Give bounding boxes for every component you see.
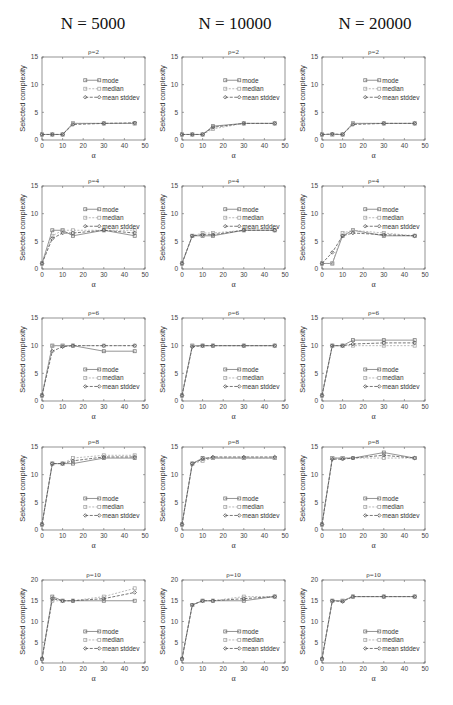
x-tick-label: 20 [80, 665, 88, 672]
x-tick-label: 40 [401, 142, 409, 149]
y-tick-label: 0 [314, 526, 318, 533]
panel-title: ρ=8 [88, 438, 99, 446]
y-tick-label: 20 [171, 576, 179, 583]
x-tick-label: 0 [40, 142, 44, 149]
legend-label: mode [242, 206, 259, 213]
y-tick-label: 15 [171, 182, 179, 189]
y-tick-label: 15 [311, 597, 319, 604]
legend-label: median [102, 503, 124, 510]
legend-label: mode [382, 495, 399, 502]
legend-label: mean stddev [382, 223, 420, 230]
y-tick-label: 5 [174, 370, 178, 377]
y-axis-label: Selected complexity [298, 455, 307, 522]
y-tick-label: 10 [171, 81, 179, 88]
y-tick-label: 5 [34, 370, 38, 377]
y-axis-label: Selected complexity [158, 326, 167, 393]
y-tick-label: 15 [171, 53, 179, 60]
x-axis-label: α [231, 674, 236, 683]
x-tick-label: 50 [141, 665, 149, 672]
y-tick-label: 10 [311, 81, 319, 88]
x-tick-label: 0 [320, 142, 324, 149]
x-tick-label: 20 [220, 142, 228, 149]
x-tick-label: 20 [220, 532, 228, 539]
x-tick-label: 30 [380, 271, 388, 278]
y-tick-label: 5 [174, 639, 178, 646]
x-tick-label: 10 [339, 403, 347, 410]
y-tick-label: 0 [174, 659, 178, 666]
y-tick-label: 5 [174, 238, 178, 245]
legend-label: mean stddev [242, 645, 280, 652]
y-tick-label: 15 [171, 443, 179, 450]
x-tick-label: 10 [339, 665, 347, 672]
x-tick-label: 0 [180, 665, 184, 672]
y-tick-label: 0 [34, 136, 38, 143]
x-tick-label: 50 [281, 665, 289, 672]
y-tick-label: 15 [31, 53, 39, 60]
x-tick-label: 30 [100, 665, 108, 672]
legend-label: median [382, 503, 404, 510]
x-axis-label: α [91, 674, 96, 683]
x-tick-label: 10 [199, 532, 207, 539]
x-axis-label: α [231, 280, 236, 289]
legend-label: mean stddev [382, 512, 420, 519]
x-tick-label: 30 [240, 403, 248, 410]
y-tick-label: 0 [34, 265, 38, 272]
legend-label: median [242, 85, 264, 92]
y-tick-label: 0 [314, 659, 318, 666]
panel-title: ρ=8 [228, 438, 239, 446]
y-axis-label: Selected complexity [18, 588, 27, 655]
x-tick-label: 30 [100, 532, 108, 539]
y-tick-label: 10 [311, 342, 319, 349]
y-tick-label: 20 [31, 576, 39, 583]
x-tick-label: 20 [220, 271, 228, 278]
x-tick-label: 50 [421, 142, 429, 149]
x-axis-label: α [371, 151, 376, 160]
legend-label: median [102, 636, 124, 643]
panel-title: ρ=6 [228, 309, 239, 317]
y-tick-label: 0 [34, 659, 38, 666]
x-tick-label: 40 [401, 665, 409, 672]
x-tick-label: 10 [339, 532, 347, 539]
legend-label: mean stddev [242, 94, 280, 101]
legend-label: median [102, 214, 124, 221]
x-tick-label: 0 [320, 271, 324, 278]
legend-label: mode [382, 366, 399, 373]
y-axis-label: Selected complexity [158, 455, 167, 522]
legend-label: mode [382, 77, 399, 84]
panel-title: ρ=4 [368, 177, 379, 185]
x-tick-label: 0 [180, 403, 184, 410]
legend-label: mode [242, 628, 259, 635]
y-axis-label: Selected complexity [18, 455, 27, 522]
x-axis-label: α [231, 151, 236, 160]
panel-title: ρ=10 [226, 571, 241, 579]
y-tick-label: 15 [311, 314, 319, 321]
y-tick-label: 5 [34, 499, 38, 506]
legend-label: mode [382, 206, 399, 213]
legend-label: mean stddev [242, 223, 280, 230]
x-tick-label: 40 [261, 142, 269, 149]
legend-label: mean stddev [102, 94, 140, 101]
x-axis-label: α [91, 151, 96, 160]
x-tick-label: 0 [40, 532, 44, 539]
y-tick-label: 10 [31, 81, 39, 88]
legend-label: mean stddev [242, 512, 280, 519]
x-tick-label: 30 [380, 532, 388, 539]
legend-label: mean stddev [102, 645, 140, 652]
x-tick-label: 10 [199, 142, 207, 149]
legend-label: median [102, 85, 124, 92]
x-tick-label: 0 [320, 403, 324, 410]
y-tick-label: 0 [174, 136, 178, 143]
y-tick-label: 10 [31, 618, 39, 625]
x-tick-label: 20 [360, 142, 368, 149]
y-tick-label: 10 [171, 618, 179, 625]
y-tick-label: 15 [31, 443, 39, 450]
y-tick-label: 15 [31, 597, 39, 604]
x-tick-label: 0 [180, 142, 184, 149]
x-tick-label: 20 [360, 403, 368, 410]
x-tick-label: 20 [80, 271, 88, 278]
x-axis-label: α [91, 280, 96, 289]
legend-label: mode [382, 628, 399, 635]
x-tick-label: 10 [59, 403, 67, 410]
legend-label: median [382, 214, 404, 221]
x-tick-label: 10 [339, 142, 347, 149]
